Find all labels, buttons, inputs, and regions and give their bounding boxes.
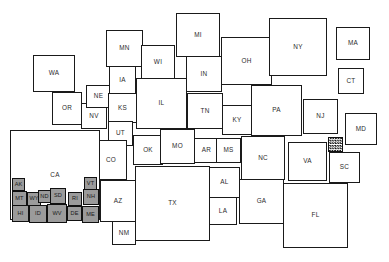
state-label-ok: OK [143,147,153,153]
state-label-ms: MS [223,147,233,153]
state-label-me: ME [86,212,95,218]
state-label-mt: MT [15,196,23,202]
state-label-ne: NE [94,93,103,99]
state-rect-ky[interactable]: KY [222,105,252,135]
state-label-nj: NJ [316,113,324,119]
state-label-az: AZ [114,198,123,204]
state-rect-nh[interactable]: NH [83,189,99,205]
state-rect-tx[interactable]: TX [135,166,210,241]
state-rect-ri[interactable]: RI [68,192,82,206]
state-label-wv: WV [52,211,61,217]
state-rect-ny[interactable]: NY [269,18,327,76]
state-label-ny: NY [293,44,302,50]
state-rect-de[interactable]: DE [67,206,82,221]
state-label-mo: MO [172,143,183,149]
state-label-il: IL [159,100,165,106]
state-label-or: OR [62,105,72,111]
state-label-ri: RI [72,196,78,202]
state-rect-me[interactable]: ME [82,206,99,223]
state-rect-ia[interactable]: IA [109,66,136,95]
state-label-sd: SD [54,193,62,199]
state-label-nd: ND [40,194,48,200]
state-rect-la[interactable]: LA [209,197,237,225]
state-label-hi: HI [18,211,24,217]
state-rect-il[interactable]: IL [136,78,187,129]
state-rect-az[interactable]: AZ [100,180,136,222]
us-state-cartogram: WAORNVNEIAKSUTMNWIMIILINOHNYMACTTNKYPANJ… [0,0,389,262]
state-rect-mn[interactable]: MN [106,30,143,67]
state-rect-mt[interactable]: MT [12,191,27,206]
state-rect-ak[interactable]: AK [12,178,25,191]
state-rect-pa[interactable]: PA [251,85,302,136]
state-rect-fl[interactable]: FL [283,183,348,248]
state-label-ct: CT [346,78,355,84]
state-rect-sc[interactable]: SC [329,152,360,183]
state-label-wa: WA [49,70,60,76]
state-rect-hi[interactable]: HI [12,205,29,222]
state-rect-tn[interactable]: TN [187,93,223,129]
state-label-ky: KY [232,117,241,123]
state-rect-ga[interactable]: GA [239,179,284,224]
state-rect-ma[interactable]: MA [336,27,370,60]
state-label-ca: CA [50,172,59,178]
state-label-va: VA [303,158,312,164]
state-label-tn: TN [200,108,209,114]
state-rect-id[interactable]: ID [29,205,47,223]
state-label-mn: MN [119,45,129,51]
state-label-oh: OH [241,58,251,64]
state-label-al: AL [220,179,228,185]
state-label-nv: NV [89,113,98,119]
state-label-fl: FL [312,212,320,218]
state-label-tx: TX [168,200,177,206]
state-rect-md[interactable]: MD [345,113,377,145]
state-label-ia: IA [119,77,126,83]
state-label-wi: WI [154,59,162,65]
state-label-vt: VT [87,181,94,187]
state-rect-mo[interactable]: MO [160,129,195,164]
state-label-pa: PA [272,107,281,113]
state-label-id: ID [35,211,41,217]
state-label-ga: GA [257,198,267,204]
state-rect-ct[interactable]: CT [338,68,364,94]
state-rect-ok[interactable]: OK [133,135,163,165]
state-label-ak: AK [15,182,23,188]
state-label-ma: MA [348,40,358,46]
state-rect-al[interactable]: AL [209,167,240,198]
state-rect-ms[interactable]: MS [216,138,241,163]
state-rect-va[interactable]: VA [288,142,327,181]
state-label-la: LA [219,208,227,214]
state-label-nm: NM [119,230,129,236]
state-label-ut: UT [116,130,125,136]
state-rect-oh[interactable]: OH [221,37,272,85]
state-rect-nc[interactable]: NC [241,136,285,180]
state-label-ks: KS [118,105,127,111]
state-rect-wv[interactable]: WV [47,204,67,223]
state-rect-nm[interactable]: NM [112,221,136,245]
state-rect-ks[interactable]: KS [108,93,137,123]
state-rect-nj[interactable]: NJ [303,99,338,134]
state-label-nc: NC [258,155,268,161]
state-label-nh: NH [87,194,95,200]
state-label-md: MD [356,126,366,132]
state-rect-dc[interactable]: DC [328,137,343,152]
state-label-sc: SC [340,164,349,170]
state-rect-wi[interactable]: WI [141,45,175,79]
state-label-ar: AR [202,147,211,153]
state-label-in: IN [201,71,208,77]
state-label-de: DE [71,211,79,217]
state-rect-mi[interactable]: MI [176,13,220,57]
state-rect-or[interactable]: OR [52,92,82,125]
state-rect-wa[interactable]: WA [33,55,75,92]
state-rect-in[interactable]: IN [186,56,222,92]
state-rect-sd[interactable]: SD [50,188,66,204]
state-label-mi: MI [194,32,202,38]
state-label-co: CO [106,157,116,163]
